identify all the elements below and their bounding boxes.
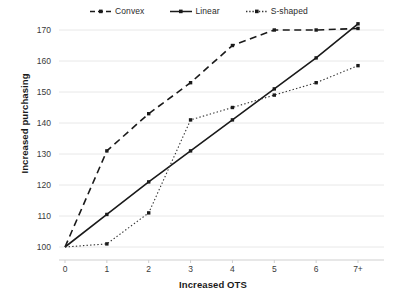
data-point-marker — [105, 242, 108, 245]
data-point-marker — [356, 27, 359, 30]
data-point-marker — [147, 211, 150, 214]
data-point-marker — [273, 87, 276, 90]
data-point-marker — [231, 44, 234, 47]
data-point-marker — [273, 28, 276, 31]
x-tick-label: 4 — [220, 265, 244, 274]
data-point-marker — [105, 213, 108, 216]
series-s-shaped — [65, 64, 360, 247]
series-line — [65, 66, 358, 247]
legend-entry-linear: Linear — [170, 7, 219, 16]
chart-container: Convex Linear S-shaped Increased purchas… — [0, 0, 393, 301]
axis-lines — [59, 260, 384, 263]
data-point-marker — [189, 81, 192, 84]
y-tick-label: 120 — [23, 181, 51, 190]
series-line — [65, 24, 358, 247]
x-tick-label: 6 — [304, 265, 328, 274]
y-tick-label: 170 — [23, 26, 51, 35]
plot-area — [0, 0, 393, 301]
data-point-marker — [189, 118, 192, 121]
legend-label-convex: Convex — [115, 7, 144, 16]
x-tick-label: 2 — [137, 265, 161, 274]
legend-swatch-s-shaped-dotted-icon — [246, 7, 268, 16]
legend-entry-convex: Convex — [90, 7, 144, 16]
x-tick-label: 7+ — [346, 265, 370, 274]
legend-label-linear: Linear — [195, 7, 219, 16]
y-tick-label: 140 — [23, 119, 51, 128]
data-point-marker — [356, 22, 359, 25]
x-tick-label: 3 — [179, 265, 203, 274]
y-tick-label: 150 — [23, 88, 51, 97]
x-tick-label: 0 — [53, 265, 77, 274]
data-point-marker — [189, 149, 192, 152]
x-axis-title: Increased OTS — [65, 279, 361, 290]
data-point-marker — [147, 112, 150, 115]
data-point-marker — [314, 56, 317, 59]
data-point-marker — [356, 64, 359, 67]
legend-swatch-convex-dashed-icon — [90, 7, 112, 16]
y-tick-label: 160 — [23, 57, 51, 66]
data-point-marker — [314, 81, 317, 84]
legend-label-s-shaped: S-shaped — [271, 7, 308, 16]
y-tick-label: 130 — [23, 150, 51, 159]
x-tick-label: 5 — [262, 265, 286, 274]
legend-swatch-linear-solid-icon — [170, 7, 192, 16]
y-tick-label: 110 — [23, 212, 51, 221]
chart-legend: Convex Linear S-shaped — [90, 3, 320, 19]
legend-entry-s-shaped: S-shaped — [246, 7, 308, 16]
series-linear — [65, 22, 360, 247]
data-point-marker — [147, 180, 150, 183]
data-point-marker — [231, 106, 234, 109]
y-tick-label: 100 — [23, 243, 51, 252]
data-point-marker — [231, 118, 234, 121]
data-point-marker — [273, 93, 276, 96]
series-layer — [65, 22, 360, 247]
data-point-marker — [314, 28, 317, 31]
series-convex — [65, 27, 360, 247]
data-point-marker — [105, 149, 108, 152]
x-tick-label: 1 — [95, 265, 119, 274]
